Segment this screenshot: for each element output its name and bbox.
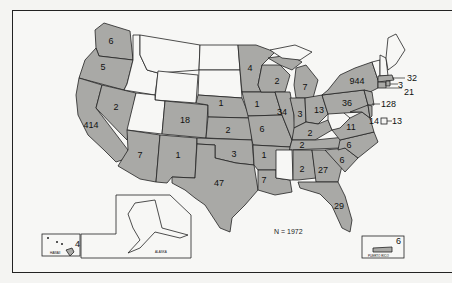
count-washington: 6 <box>108 36 113 46</box>
count-illinois: 34 <box>277 107 287 117</box>
count-rhode-island: 3 <box>398 80 403 90</box>
count-florida: 29 <box>334 201 344 211</box>
count-california: 414 <box>83 120 98 130</box>
count-north-carolina: 6 <box>346 140 351 150</box>
state-montana <box>140 35 200 73</box>
count-tennessee: 2 <box>299 140 304 150</box>
state-north-dakota <box>199 45 240 70</box>
total-count-label: N = 1972 <box>274 228 303 235</box>
count-new-york: 944 <box>349 76 364 86</box>
count-iowa: 1 <box>254 99 259 109</box>
count-nebraska: 1 <box>218 98 223 108</box>
count-alabama: 2 <box>299 164 304 174</box>
state-puerto-rico <box>373 247 392 252</box>
state-maine <box>386 34 405 70</box>
count-oklahoma: 3 <box>231 149 236 159</box>
count-missouri: 6 <box>259 124 264 134</box>
count-kentucky: 2 <box>307 128 312 138</box>
hawaii-island <box>56 241 58 243</box>
count-georgia: 27 <box>318 165 328 175</box>
count-connecticut: 21 <box>404 87 414 97</box>
state-hawaii-islands <box>66 248 74 256</box>
count-south-carolina: 6 <box>339 155 344 165</box>
count-arkansas: 1 <box>261 150 266 160</box>
count-new-jersey: 128 <box>381 99 396 109</box>
state-alaska <box>128 200 188 253</box>
count-minnesota: 4 <box>247 63 252 73</box>
label-puerto-rico: PUERTO RICO <box>368 254 389 258</box>
count-colorado: 18 <box>180 115 190 125</box>
count-texas: 47 <box>214 178 224 188</box>
state-south-dakota <box>198 70 242 98</box>
count-arizona: 7 <box>137 150 142 160</box>
count-oregon: 5 <box>100 62 105 72</box>
count-dc: 13 <box>392 116 402 126</box>
count-louisiana: 7 <box>261 175 266 185</box>
dc-box <box>381 118 387 124</box>
hawaii-island <box>61 243 63 245</box>
count-maryland: 14 <box>369 116 379 126</box>
count-hawaii: 4 <box>75 239 80 249</box>
count-wisconsin: 2 <box>274 76 279 86</box>
label-hawaii: HAWAII <box>50 251 61 255</box>
count-new-mexico: 1 <box>175 150 180 160</box>
count-ohio: 13 <box>314 105 324 115</box>
count-puerto-rico: 6 <box>396 236 401 246</box>
count-indiana: 3 <box>297 109 302 119</box>
count-michigan: 7 <box>302 82 307 92</box>
state-wyoming <box>155 71 198 103</box>
hawaii-island <box>47 237 49 239</box>
label-alaska: ALASKA <box>155 250 167 254</box>
state-mississippi <box>276 150 293 180</box>
state-washington <box>95 23 133 60</box>
count-kansas: 2 <box>225 125 230 135</box>
count-massachusetts: 32 <box>407 73 417 83</box>
state-connecticut <box>378 82 386 88</box>
state-rhode-island <box>386 81 390 86</box>
count-pennsylvania: 36 <box>342 98 352 108</box>
count-virginia: 11 <box>346 122 355 132</box>
count-nevada: 2 <box>113 102 118 112</box>
